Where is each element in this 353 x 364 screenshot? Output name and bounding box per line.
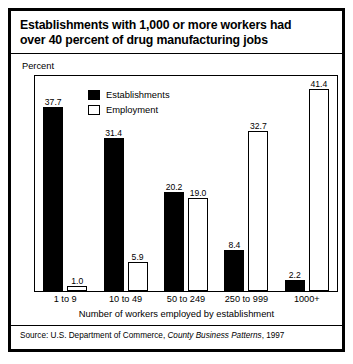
legend-label-employment: Employment (106, 105, 158, 115)
figure-container: Establishments with 1,000 or more worker… (8, 8, 345, 352)
legend-item-establishments: Establishments (88, 89, 170, 101)
bar-value-label: 1.0 (71, 276, 83, 286)
legend-swatch-establishments-icon (88, 90, 100, 100)
bar-establishments: 31.4 (104, 138, 124, 291)
bar-group: 37.71.0 (43, 76, 87, 291)
bar-value-label: 19.0 (190, 188, 207, 198)
x-tick-label: 1000+ (294, 294, 320, 304)
source-publication: County Business Patterns (167, 331, 261, 340)
bar-value-label: 8.4 (228, 240, 240, 250)
bar-employment: 1.0 (67, 286, 87, 291)
bar-establishments: 2.2 (285, 280, 305, 291)
bar-value-label: 41.4 (310, 79, 327, 89)
chart-title-line-2: over 40 percent of drug manufacturing jo… (20, 33, 333, 48)
x-axis-title: Number of workers employed by establishm… (11, 308, 342, 319)
source-prefix: Source: U.S. Department of Commerce, (20, 331, 167, 340)
bar-group: 20.219.0 (164, 76, 208, 291)
plot-area: 37.71.031.45.920.219.08.432.72.241.4 Est… (34, 75, 338, 292)
legend-label-establishments: Establishments (106, 90, 170, 100)
chart-legend: Establishments Employment (88, 89, 170, 116)
source-note: Source: U.S. Department of Commerce, Cou… (20, 331, 284, 340)
source-suffix: , 1997 (262, 331, 285, 340)
x-axis-tick-labels: 1 to 910 to 4950 to 249250 to 9991000+ (34, 294, 338, 307)
bar-value-label: 37.7 (45, 97, 62, 107)
bar-group: 8.432.7 (224, 76, 268, 291)
bar-establishments: 20.2 (164, 192, 184, 291)
plot-inner: 37.71.031.45.920.219.08.432.72.241.4 (35, 76, 337, 291)
bar-group: 2.241.4 (285, 76, 329, 291)
bar-employment: 41.4 (309, 89, 329, 291)
bar-value-label: 5.9 (132, 252, 144, 262)
bar-establishments: 37.7 (43, 107, 63, 291)
x-tick-label: 1 to 9 (54, 294, 77, 304)
bar-value-label: 20.2 (166, 182, 183, 192)
y-axis-unit-label: Percent (22, 61, 54, 71)
x-tick-label: 10 to 49 (109, 294, 142, 304)
x-tick-label: 250 to 999 (225, 294, 268, 304)
bar-value-label: 32.7 (250, 121, 267, 131)
legend-item-employment: Employment (88, 104, 170, 116)
chart-title-block: Establishments with 1,000 or more worker… (11, 11, 342, 54)
legend-swatch-employment-icon (88, 105, 100, 115)
bar-value-label: 31.4 (105, 128, 122, 138)
bar-employment: 5.9 (128, 262, 148, 291)
bar-employment: 19.0 (188, 198, 208, 291)
chart-title-line-1: Establishments with 1,000 or more worker… (20, 18, 333, 33)
source-divider (11, 325, 342, 326)
bar-employment: 32.7 (248, 131, 268, 291)
bar-establishments: 8.4 (224, 250, 244, 291)
x-tick-label: 50 to 249 (167, 294, 205, 304)
bar-value-label: 2.2 (289, 270, 301, 280)
